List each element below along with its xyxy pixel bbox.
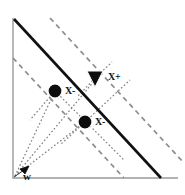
data-point-x-minus-upper[interactable] xyxy=(48,84,62,98)
ray-to-x-minus-upper xyxy=(15,91,55,176)
label-weight-vector: w xyxy=(23,171,31,182)
svm-diagram-canvas xyxy=(0,0,185,195)
label-x-plus: X+ xyxy=(108,72,121,82)
axis-lines xyxy=(13,18,178,178)
decision-boundary-line xyxy=(14,19,161,178)
label-x-minus-upper: X- xyxy=(65,86,75,96)
data-point-x-minus-lower[interactable] xyxy=(78,115,92,129)
ray-x-minus-lower-extension xyxy=(85,80,130,122)
svm-margin-figure: X+ X- X- w xyxy=(0,0,185,195)
label-x-minus-lower: X- xyxy=(95,117,105,127)
